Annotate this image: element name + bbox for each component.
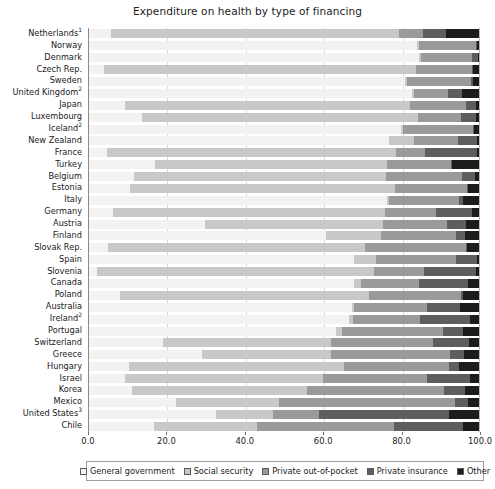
bar-segment: [425, 148, 476, 157]
y-axis-label: Mexico: [0, 397, 82, 406]
bar-segment: [436, 208, 473, 217]
stacked-bar[interactable]: [89, 220, 479, 229]
stacked-bar[interactable]: [89, 243, 479, 252]
legend-item[interactable]: Social security: [184, 466, 254, 476]
y-axis-label: Turkey: [0, 160, 82, 169]
bar-segment: [477, 136, 479, 145]
stacked-bar[interactable]: [89, 41, 479, 50]
x-axis-tick: [88, 432, 89, 435]
bar-segment: [463, 422, 479, 431]
bar-segment: [381, 231, 455, 240]
stacked-bar[interactable]: [89, 350, 479, 359]
bar-segment: [456, 231, 465, 240]
bar-segment: [112, 29, 399, 38]
stacked-bar[interactable]: [89, 160, 479, 169]
y-axis-label: Belgium: [0, 172, 82, 181]
stacked-bar[interactable]: [89, 208, 479, 217]
stacked-bar[interactable]: [89, 172, 479, 181]
legend-swatch-icon: [80, 468, 87, 475]
y-axis-labels: Netherlands1NorwayDenmarkCzech Rep.Swede…: [0, 28, 85, 432]
bar-segment: [396, 148, 426, 157]
stacked-bar[interactable]: [89, 267, 479, 276]
bar-segment: [206, 220, 383, 229]
stacked-bar[interactable]: [89, 101, 479, 110]
bar-row: [89, 398, 479, 407]
bar-segment: [89, 65, 105, 74]
stacked-bar[interactable]: [89, 422, 479, 431]
stacked-bar[interactable]: [89, 327, 479, 336]
bar-segment: [476, 101, 479, 110]
bar-segment: [450, 350, 464, 359]
bar-segment: [89, 243, 109, 252]
bar-segment: [395, 184, 468, 193]
bar-segment: [449, 410, 479, 419]
bar-row: [89, 386, 479, 395]
stacked-bar[interactable]: [89, 255, 479, 264]
bar-segment: [455, 398, 468, 407]
y-axis-label: United States3: [0, 409, 82, 418]
stacked-bar[interactable]: [89, 77, 479, 86]
bar-segment: [105, 65, 417, 74]
stacked-bar[interactable]: [89, 148, 479, 157]
stacked-bar[interactable]: [89, 338, 479, 347]
bar-segment: [156, 160, 386, 169]
bar-segment: [354, 303, 427, 312]
x-axis-tick: [245, 432, 246, 435]
bar-segment: [344, 362, 449, 371]
stacked-bar[interactable]: [89, 410, 479, 419]
bar-row: [89, 243, 479, 252]
bar-segment: [89, 89, 413, 98]
bar-segment: [319, 410, 449, 419]
stacked-bar[interactable]: [89, 386, 479, 395]
chart-figure: Expenditure on health by type of financi…: [0, 0, 495, 489]
stacked-bar[interactable]: [89, 53, 479, 62]
stacked-bar[interactable]: [89, 291, 479, 300]
bar-segment: [89, 29, 112, 38]
bar-segment: [394, 422, 463, 431]
stacked-bar[interactable]: [89, 398, 479, 407]
stacked-bar[interactable]: [89, 196, 479, 205]
stacked-bar[interactable]: [89, 315, 479, 324]
bar-segment: [89, 398, 177, 407]
y-axis-label: Finland: [0, 231, 82, 240]
legend-item[interactable]: Other: [457, 466, 490, 476]
bar-row: [89, 350, 479, 359]
stacked-bar[interactable]: [89, 279, 479, 288]
bar-segment: [89, 208, 114, 217]
legend-item[interactable]: Private out-of-pocket: [262, 466, 357, 476]
legend-item[interactable]: General government: [80, 466, 175, 476]
stacked-bar[interactable]: [89, 231, 479, 240]
stacked-bar[interactable]: [89, 89, 479, 98]
bar-row: [89, 41, 479, 50]
legend-item[interactable]: Private insurance: [367, 466, 448, 476]
legend-swatch-icon: [184, 468, 191, 475]
bar-segment: [89, 303, 353, 312]
stacked-bar[interactable]: [89, 374, 479, 383]
bar-row: [89, 422, 479, 431]
y-axis-label: Greece: [0, 350, 82, 359]
bar-segment: [424, 267, 476, 276]
bar-row: [89, 65, 479, 74]
stacked-bar[interactable]: [89, 136, 479, 145]
bar-segment: [89, 362, 130, 371]
stacked-bar[interactable]: [89, 125, 479, 134]
bar-segment: [164, 338, 331, 347]
bar-segment: [89, 172, 135, 181]
bar-segment: [427, 374, 470, 383]
stacked-bar[interactable]: [89, 29, 479, 38]
bar-row: [89, 184, 479, 193]
bar-segment: [410, 101, 466, 110]
stacked-bar[interactable]: [89, 113, 479, 122]
bar-segment: [126, 101, 410, 110]
bar-segment: [386, 172, 462, 181]
stacked-bar[interactable]: [89, 65, 479, 74]
bar-row: [89, 362, 479, 371]
y-axis-label: Italy: [0, 195, 82, 204]
bar-row: [89, 196, 479, 205]
bar-row: [89, 338, 479, 347]
bar-row: [89, 410, 479, 419]
bar-segment: [421, 53, 472, 62]
stacked-bar[interactable]: [89, 184, 479, 193]
stacked-bar[interactable]: [89, 303, 479, 312]
stacked-bar[interactable]: [89, 362, 479, 371]
